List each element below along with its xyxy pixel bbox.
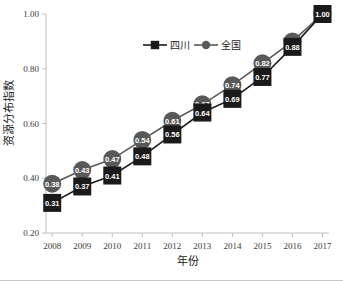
data-label-national-2011: 0.54	[135, 136, 150, 145]
data-label-sichuan-2014: 0.69	[225, 95, 240, 104]
x-tick-label: 2009	[73, 241, 92, 251]
data-label-national-2008: 0.38	[45, 180, 60, 189]
data-label-sichuan-2015: 0.77	[255, 73, 270, 82]
x-tick-label: 2011	[133, 241, 151, 251]
data-label-sichuan-2013: 0.64	[195, 109, 210, 118]
data-label-sichuan-2017: 1.00	[315, 10, 330, 19]
y-tick-label: 0.80	[23, 64, 39, 74]
x-tick-label: 2017	[313, 241, 332, 251]
y-axis-title: 资源分布指数	[2, 80, 16, 146]
y-tick-label: 0.40	[23, 173, 39, 183]
x-tick-label: 2014	[223, 241, 242, 251]
data-label-national-2012: 0.61	[165, 117, 180, 126]
y-tick-label: 1.00	[23, 9, 39, 19]
resource-distribution-index-line-chart: 0.200.400.600.801.0020082009201020112012…	[0, 0, 343, 281]
x-tick-label: 2012	[163, 241, 181, 251]
x-tick-label: 2015	[253, 241, 272, 251]
data-label-national-2010: 0.47	[105, 155, 120, 164]
x-tick-label: 2013	[193, 241, 212, 251]
data-label-sichuan-2010: 0.41	[105, 172, 120, 181]
legend-marker-square-sichuan	[151, 41, 159, 49]
data-label-national-2015: 0.82	[255, 59, 270, 68]
legend-label-sichuan[interactable]: 四川	[170, 40, 190, 51]
y-tick-label: 0.60	[23, 119, 39, 129]
y-tick-label: 0.20	[23, 228, 39, 238]
data-label-sichuan-2016: 0.88	[285, 43, 300, 52]
chart-container: 0.200.400.600.801.0020082009201020112012…	[0, 0, 343, 281]
data-label-national-2009: 0.43	[75, 166, 90, 175]
data-label-national-2014: 0.74	[225, 81, 240, 90]
data-label-sichuan-2012: 0.56	[165, 130, 180, 139]
legend-marker-circle-national	[202, 41, 210, 49]
data-label-sichuan-2009: 0.37	[75, 182, 90, 191]
x-tick-label: 2008	[43, 241, 62, 251]
x-axis-title: 年份	[177, 254, 199, 268]
legend-label-national[interactable]: 全国	[221, 39, 241, 51]
data-label-sichuan-2011: 0.48	[135, 152, 150, 161]
data-label-sichuan-2008: 0.31	[45, 199, 60, 208]
x-tick-label: 2016	[283, 241, 302, 251]
x-tick-label: 2010	[103, 241, 122, 251]
